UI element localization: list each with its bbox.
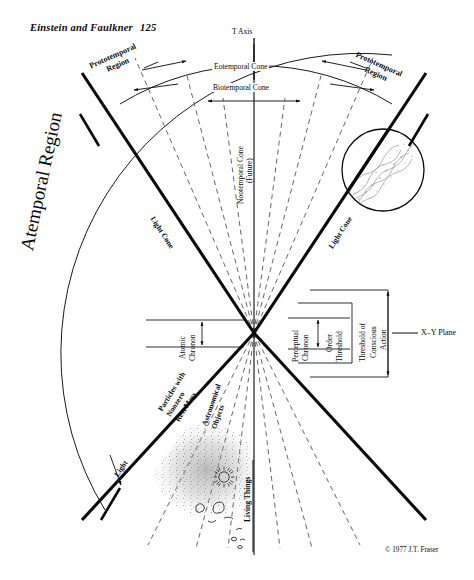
threshold-conscious-line1: Threshold of xyxy=(358,292,367,362)
t-axis-label: T Axis xyxy=(232,27,252,36)
atomic-chronon-line1: Atomic xyxy=(178,307,187,359)
order-threshold-line2: Threshold xyxy=(335,300,344,362)
eotemporal-cone-label: Eotemporal Cone xyxy=(212,62,269,71)
atomic-chronon-line2: Chronon xyxy=(188,303,197,361)
order-threshold-line1: Order xyxy=(325,312,334,352)
biotemporal-cone-label: Biotemporal Cone xyxy=(211,83,271,92)
xy-plane-label: X–Y Plane xyxy=(421,328,456,337)
perceptual-chronon-line2: Chronon xyxy=(301,303,310,361)
nootemporal-future-label: (Future) xyxy=(245,141,254,183)
living-things-label: Living Things xyxy=(243,460,252,522)
perceptual-chronon-line1: Perceptual xyxy=(291,300,300,362)
threshold-conscious-line3: Action xyxy=(379,310,388,350)
nootemporal-cone-label: Nootemporal Cone xyxy=(236,126,245,204)
threshold-conscious-line2: Conscious xyxy=(369,298,378,358)
figure-page: Einstein and Faulkner 125 © 1977 J.T. Fr… xyxy=(0,0,474,580)
